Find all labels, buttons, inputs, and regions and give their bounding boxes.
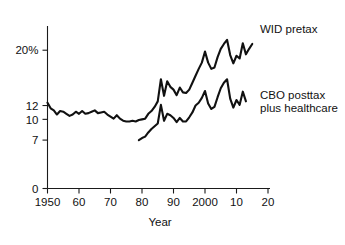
- y-tick-label: 10: [26, 114, 39, 126]
- series-line-cbo-posttax: [139, 79, 246, 140]
- line-chart: 07101220% 19506070809020001020 WID preta…: [0, 0, 345, 245]
- x-tick-label: 10: [230, 196, 243, 208]
- x-tick-label: 1950: [35, 196, 61, 208]
- y-tick-label: 20%: [15, 44, 38, 56]
- x-tick-label: 20: [262, 196, 275, 208]
- y-tick-group: 07101220%: [15, 44, 47, 194]
- x-tick-label: 80: [136, 196, 149, 208]
- y-tick-label: 0: [32, 183, 38, 195]
- x-tick-label: 60: [73, 196, 86, 208]
- x-tick-label: 2000: [192, 196, 218, 208]
- x-axis-title: Year: [148, 216, 171, 228]
- x-tick-label: 70: [104, 196, 117, 208]
- chart-container: 07101220% 19506070809020001020 WID preta…: [0, 0, 345, 245]
- y-tick-label: 7: [32, 134, 38, 146]
- x-tick-group: 19506070809020001020: [35, 189, 275, 208]
- series-label-cbo-posttax-line2: plus healthcare: [260, 102, 338, 114]
- series-label-wid-pretax: WID pretax: [260, 23, 318, 35]
- y-tick-label: 12: [26, 100, 39, 112]
- axes-group: [48, 26, 271, 189]
- x-tick-label: 90: [167, 196, 180, 208]
- series-line-wid-pretax: [48, 40, 253, 122]
- series-label-cbo-posttax-line1: CBO posttax: [260, 89, 325, 101]
